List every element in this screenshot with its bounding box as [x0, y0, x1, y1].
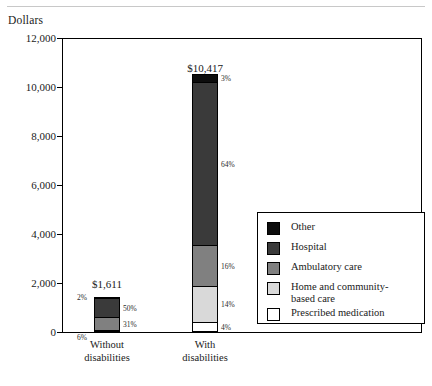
- bar-segment-divider: [94, 330, 120, 331]
- legend-item[interactable]: Ambulatory care: [267, 261, 362, 275]
- bar-segment[interactable]: [94, 298, 120, 318]
- segment-percent-label: 4%: [221, 322, 231, 331]
- bar-segment-divider: [94, 317, 120, 318]
- bar-segment[interactable]: [192, 286, 218, 322]
- legend-label: Hospital: [291, 241, 327, 253]
- y-axis-tick-label: 12,000: [26, 32, 56, 44]
- bar-segment-divider: [192, 286, 218, 287]
- y-axis-tick-label: 6,000: [31, 179, 56, 191]
- legend: OtherHospitalAmbulatory careHome and com…: [257, 212, 425, 324]
- x-axis-category-label: Withoutdisabilities: [84, 339, 130, 364]
- category-label-line: disabilities: [84, 352, 130, 365]
- category-label-line: disabilities: [182, 352, 228, 365]
- legend-swatch: [267, 242, 280, 255]
- y-axis-tick-label: 8,000: [31, 130, 56, 142]
- segment-percent-label: 64%: [221, 159, 235, 168]
- y-axis-tick-label: 10,000: [26, 81, 56, 93]
- legend-label: Prescribed medication: [291, 307, 385, 319]
- y-axis-tick: [57, 185, 62, 186]
- legend-item[interactable]: Hospital: [267, 241, 327, 255]
- y-axis-tick: [57, 332, 62, 333]
- segment-percent-label: 2%: [77, 292, 87, 301]
- segment-percent-label: 50%: [123, 303, 137, 312]
- legend-swatch: [267, 282, 280, 295]
- y-axis-tick: [57, 38, 62, 39]
- bar-total-label: $10,417: [187, 62, 223, 74]
- category-label-line: With: [182, 339, 228, 352]
- legend-label: Other: [291, 221, 315, 233]
- y-axis-tick-label: 0: [51, 326, 57, 338]
- legend-item[interactable]: Other: [267, 221, 315, 235]
- bar-segment-divider: [192, 82, 218, 83]
- y-axis-title: Dollars: [8, 14, 43, 26]
- legend-swatch: [267, 262, 280, 275]
- bar-segment-divider: [94, 297, 120, 298]
- bar-segment[interactable]: [192, 74, 218, 82]
- header-divider: [7, 6, 425, 7]
- stacked-bar[interactable]: [192, 38, 218, 333]
- y-axis-line: [62, 38, 63, 333]
- y-axis-tick: [57, 283, 62, 284]
- bar-segment[interactable]: [192, 82, 218, 245]
- y-axis-tick: [57, 87, 62, 88]
- x-axis-category-label: Withdisabilities: [182, 339, 228, 364]
- legend-label: Ambulatory care: [291, 261, 362, 273]
- y-axis-tick-label: 2,000: [31, 277, 56, 289]
- bar-segment[interactable]: [192, 245, 218, 286]
- chart-figure: Dollars 02,0004,0006,0008,00010,00012,00…: [0, 0, 432, 386]
- bar-segment-divider: [192, 245, 218, 246]
- segment-percent-label: 16%: [221, 261, 235, 270]
- y-axis-tick: [57, 234, 62, 235]
- legend-swatch: [267, 308, 280, 321]
- bar-segment[interactable]: [192, 322, 218, 332]
- y-axis-tick-label: 4,000: [31, 228, 56, 240]
- legend-item[interactable]: Prescribed medication: [267, 307, 385, 321]
- segment-percent-label: 14%: [221, 299, 235, 308]
- legend-label: Home and community- based care: [291, 281, 388, 305]
- segment-percent-label: 31%: [123, 319, 137, 328]
- bar-segment-divider: [192, 322, 218, 323]
- category-label-line: Without: [84, 339, 130, 352]
- bar-total-label: $1,611: [92, 278, 122, 290]
- y-axis-tick: [57, 136, 62, 137]
- y-axis-tick-labels: 02,0004,0006,0008,00010,00012,000: [0, 38, 56, 333]
- legend-item[interactable]: Home and community- based care: [267, 281, 388, 305]
- segment-percent-label: 3%: [221, 74, 231, 83]
- legend-swatch: [267, 222, 280, 235]
- bar-segment[interactable]: [94, 317, 120, 329]
